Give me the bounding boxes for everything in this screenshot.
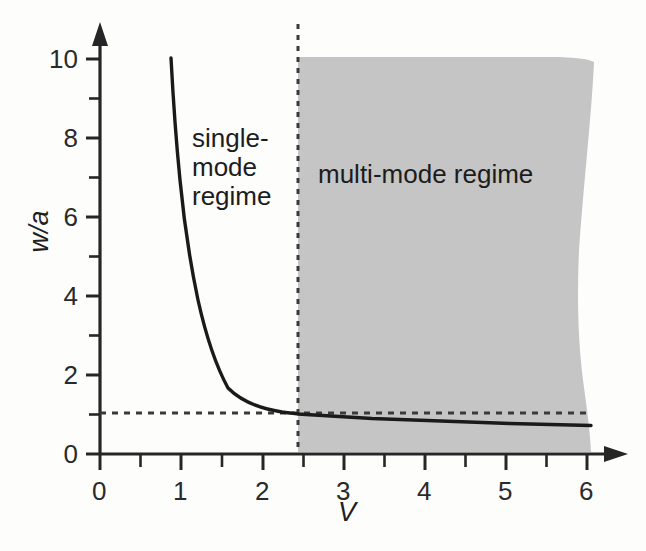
multi-mode-regime-label: multi-mode regime (318, 160, 533, 189)
y-tick-label-8: 8 (40, 125, 78, 151)
x-axis-title: V (338, 497, 356, 528)
y-tick-label-2: 2 (40, 362, 78, 388)
x-tick-label-6: 6 (579, 478, 593, 504)
y-tick-label-4: 4 (40, 283, 78, 309)
y-axis-minor-ticks (89, 99, 100, 415)
x-tick-label-5: 5 (498, 478, 512, 504)
y-axis-arrowhead (92, 22, 108, 46)
x-tick-label-2: 2 (255, 478, 269, 504)
y-tick-label-10: 10 (40, 46, 78, 72)
x-axis-major-ticks (100, 454, 587, 470)
y-tick-label-0: 0 (40, 441, 78, 467)
plot-canvas (0, 0, 646, 551)
x-tick-label-4: 4 (417, 478, 431, 504)
single-mode-regime-label: single- mode regime (192, 124, 271, 211)
y-axis-title: w/a (24, 210, 55, 252)
x-tick-label-0: 0 (92, 478, 106, 504)
x-tick-label-1: 1 (173, 478, 187, 504)
chart-figure: 10 8 6 4 2 0 0 1 2 3 4 5 6 w/a V single-… (0, 0, 646, 551)
x-axis-arrowhead (604, 446, 628, 462)
multi-mode-shaded-region (298, 57, 594, 452)
